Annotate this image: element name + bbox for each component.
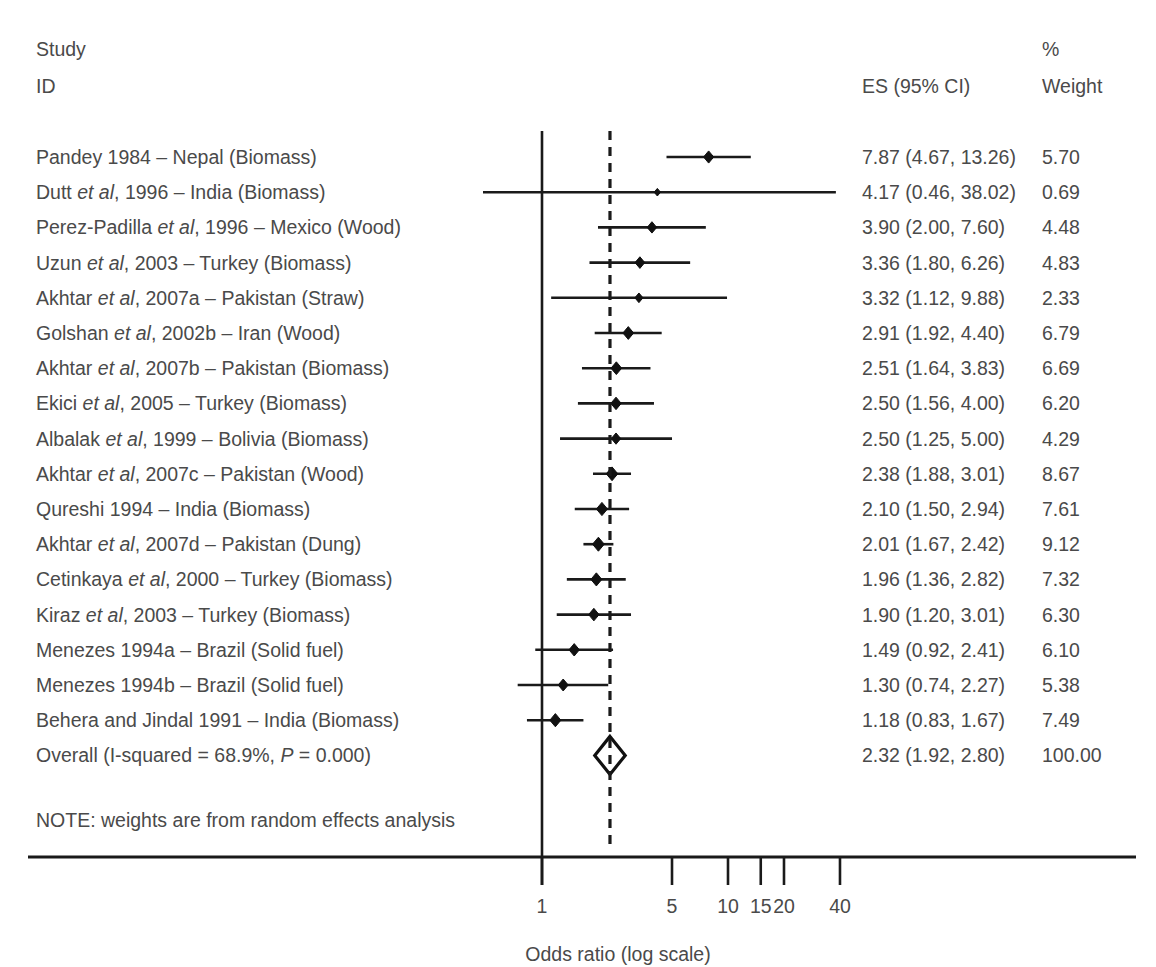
es-column-header: ES (95% CI) (862, 75, 970, 97)
weight-value: 6.30 (1042, 604, 1080, 626)
overall-label: Overall (I-squared = 68.9%, P = 0.000) (36, 744, 371, 766)
weight-value: 6.10 (1042, 639, 1080, 661)
effect-size-marker (611, 362, 622, 375)
overall-weight-value: 100.00 (1042, 744, 1102, 766)
forest-row: Perez-Padilla et al, 1996 – Mexico (Wood… (36, 216, 1080, 238)
weight-header-line2: Weight (1042, 75, 1103, 97)
weight-value: 8.67 (1042, 463, 1080, 485)
study-label: Akhtar et al, 2007a – Pakistan (Straw) (36, 287, 364, 309)
weight-value: 5.70 (1042, 146, 1080, 168)
weight-value: 6.20 (1042, 392, 1080, 414)
effect-size-value: 4.17 (0.46, 38.02) (862, 181, 1016, 203)
weight-value: 4.48 (1042, 216, 1080, 238)
weight-value: 7.61 (1042, 498, 1080, 520)
effect-size-value: 2.38 (1.88, 3.01) (862, 463, 1005, 485)
forest-row: Pandey 1984 – Nepal (Biomass)7.87 (4.67,… (36, 146, 1080, 168)
weight-value: 4.83 (1042, 252, 1080, 274)
axis-tick-label: 15 (750, 895, 772, 917)
study-label: Qureshi 1994 – India (Biomass) (36, 498, 310, 520)
overall-row: Overall (I-squared = 68.9%, P = 0.000)2.… (36, 736, 1102, 774)
axis-tick-label: 1 (537, 895, 548, 917)
forest-row: Kiraz et al, 2003 – Turkey (Biomass)1.90… (36, 604, 1080, 626)
study-label: Pandey 1984 – Nepal (Biomass) (36, 146, 317, 168)
weight-value: 4.29 (1042, 428, 1080, 450)
effect-size-value: 2.51 (1.64, 3.83) (862, 357, 1005, 379)
weight-value: 2.33 (1042, 287, 1080, 309)
study-label: Behera and Jindal 1991 – India (Biomass) (36, 709, 399, 731)
forest-row: Albalak et al, 1999 – Bolivia (Biomass)2… (36, 428, 1080, 450)
weight-value: 7.49 (1042, 709, 1080, 731)
effect-size-value: 2.50 (1.56, 4.00) (862, 392, 1005, 414)
note-text: NOTE: weights are from random effects an… (36, 809, 455, 831)
overall-effect-size-value: 2.32 (1.92, 2.80) (862, 744, 1005, 766)
forest-rows: Pandey 1984 – Nepal (Biomass)7.87 (4.67,… (36, 146, 1102, 774)
weight-value: 0.69 (1042, 181, 1080, 203)
weight-value: 9.12 (1042, 533, 1080, 555)
forest-row: Akhtar et al, 2007b – Pakistan (Biomass)… (36, 357, 1080, 379)
effect-size-marker (569, 644, 579, 656)
study-label: Perez-Padilla et al, 1996 – Mexico (Wood… (36, 216, 401, 238)
effect-size-marker (623, 327, 634, 340)
study-label: Golshan et al, 2002b – Iran (Wood) (36, 322, 340, 344)
study-label: Cetinkaya et al, 2000 – Turkey (Biomass) (36, 568, 393, 590)
study-label: Uzun et al, 2003 – Turkey (Biomass) (36, 252, 351, 274)
weight-value: 7.32 (1042, 568, 1080, 590)
effect-size-marker (606, 467, 618, 481)
effect-size-value: 1.49 (0.92, 2.41) (862, 639, 1005, 661)
study-label: Menezes 1994b – Brazil (Solid fuel) (36, 674, 344, 696)
effect-size-marker (635, 257, 645, 269)
effect-size-marker (591, 573, 602, 586)
forest-row: Qureshi 1994 – India (Biomass)2.10 (1.50… (36, 498, 1080, 520)
study-label: Akhtar et al, 2007b – Pakistan (Biomass) (36, 357, 389, 379)
forest-row: Golshan et al, 2002b – Iran (Wood)2.91 (… (36, 322, 1080, 344)
effect-size-marker (593, 537, 605, 551)
effect-size-marker (654, 188, 660, 196)
axis-tick-label: 5 (667, 895, 678, 917)
effect-size-marker (611, 433, 620, 444)
effect-size-marker (635, 293, 643, 303)
forest-row: Akhtar et al, 2007a – Pakistan (Straw)3.… (36, 287, 1080, 309)
effect-size-value: 1.30 (0.74, 2.27) (862, 674, 1005, 696)
effect-size-value: 3.90 (2.00, 7.60) (862, 216, 1005, 238)
effect-size-marker (558, 679, 568, 691)
effect-size-marker (704, 151, 714, 163)
forest-row: Akhtar et al, 2007c – Pakistan (Wood)2.3… (36, 463, 1080, 485)
plot-header: Study ID ES (95% CI) % Weight (36, 38, 1103, 97)
study-header-line2: ID (36, 75, 56, 97)
axis-tick-label: 40 (829, 895, 851, 917)
effect-size-value: 1.96 (1.36, 2.82) (862, 568, 1005, 590)
x-axis: 1510152040Odds ratio (log scale) (28, 857, 1136, 965)
forest-row: Uzun et al, 2003 – Turkey (Biomass)3.36 … (36, 252, 1080, 274)
effect-size-marker (550, 714, 561, 727)
effect-size-value: 2.01 (1.67, 2.42) (862, 533, 1005, 555)
effect-size-value: 1.18 (0.83, 1.67) (862, 709, 1005, 731)
effect-size-value: 2.91 (1.92, 4.40) (862, 322, 1005, 344)
study-label: Akhtar et al, 2007c – Pakistan (Wood) (36, 463, 364, 485)
effect-size-value: 3.36 (1.80, 6.26) (862, 252, 1005, 274)
forest-plot: Study ID ES (95% CI) % Weight Pandey 198… (0, 0, 1156, 967)
weight-value: 6.79 (1042, 322, 1080, 344)
note-group: NOTE: weights are from random effects an… (36, 809, 455, 831)
forest-row: Akhtar et al, 2007d – Pakistan (Dung)2.0… (36, 533, 1080, 555)
effect-size-value: 7.87 (4.67, 13.26) (862, 146, 1016, 168)
effect-size-value: 2.10 (1.50, 2.94) (862, 498, 1005, 520)
forest-row: Cetinkaya et al, 2000 – Turkey (Biomass)… (36, 568, 1080, 590)
weight-value: 6.69 (1042, 357, 1080, 379)
effect-size-marker (596, 502, 607, 515)
weight-value: 5.38 (1042, 674, 1080, 696)
forest-row: Menezes 1994a – Brazil (Solid fuel)1.49 … (36, 639, 1080, 661)
effect-size-value: 1.90 (1.20, 3.01) (862, 604, 1005, 626)
axis-tick-label: 10 (717, 895, 739, 917)
forest-row: Dutt et al, 1996 – India (Biomass)4.17 (… (36, 181, 1080, 203)
study-label: Albalak et al, 1999 – Bolivia (Biomass) (36, 428, 369, 450)
effect-size-marker (647, 222, 657, 233)
axis-title: Odds ratio (log scale) (525, 943, 710, 965)
study-label: Dutt et al, 1996 – India (Biomass) (36, 181, 325, 203)
effect-size-value: 3.32 (1.12, 9.88) (862, 287, 1005, 309)
study-label: Akhtar et al, 2007d – Pakistan (Dung) (36, 533, 361, 555)
effect-size-value: 2.50 (1.25, 5.00) (862, 428, 1005, 450)
study-label: Menezes 1994a – Brazil (Solid fuel) (36, 639, 344, 661)
forest-row: Behera and Jindal 1991 – India (Biomass)… (36, 709, 1080, 731)
forest-row: Ekici et al, 2005 – Turkey (Biomass)2.50… (36, 392, 1080, 414)
effect-size-marker (611, 397, 621, 409)
